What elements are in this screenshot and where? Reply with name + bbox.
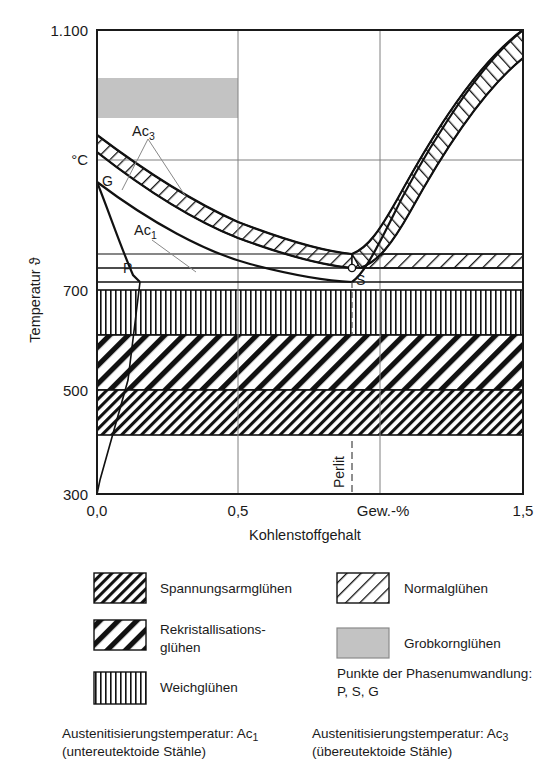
- legend-swatch-rekristallisationsgluehen: [94, 620, 146, 650]
- ytick-300: 300: [63, 486, 88, 503]
- label-point-p: P: [123, 260, 132, 276]
- y-axis-unit: °C: [71, 151, 88, 168]
- xtick-0.5: 0,5: [228, 502, 249, 519]
- legend-label-rekristallisationsgluehen-line1: Rekristallisations-: [160, 622, 266, 637]
- ytick-700: 700: [63, 282, 88, 299]
- legend-note-ac1-line1: Austenitisierungstemperatur: Ac1: [62, 726, 259, 743]
- band-spannungsarmgluehen: [97, 390, 523, 435]
- legend-note-ac1-line2: (untereutektoide Stähle): [62, 744, 206, 759]
- legend-swatch-normalgluehen: [337, 573, 389, 603]
- legend-swatch-spannungsarmgluehen: [94, 573, 146, 603]
- label-point-s: S: [356, 272, 365, 288]
- legend-label-normalgluehen: Normalglühen: [404, 581, 488, 596]
- legend-note-ac3-line2: (übereutektoide Stähle): [312, 744, 452, 759]
- legend-note-ac3-line1: Austenitisierungstemperatur: Ac3: [312, 726, 509, 743]
- x-axis-unit: Gew.-%: [357, 502, 410, 519]
- iron-carbon-heat-treatment-diagram: 1.100 700 500 300 °C Temperatur ϑ 0,0 0,…: [0, 0, 551, 782]
- band-rekristallisationsgluehen: [97, 335, 523, 390]
- band-grobkorngluehen: [97, 78, 238, 118]
- band-weichgluehen: [97, 290, 523, 335]
- y-axis-title: Temperatur ϑ: [27, 257, 43, 342]
- legend-note-phase-points-line1: Punkte der Phasenumwandlung:: [337, 666, 532, 681]
- legend-label-weichgluehen: Weichglühen: [160, 680, 238, 695]
- xtick-0.0: 0,0: [87, 502, 108, 519]
- point-marker-s: [348, 264, 355, 271]
- legend-label-grobkorngluehen: Grobkornglühen: [404, 636, 501, 651]
- legend-label-rekristallisationsgluehen-line2: glühen: [160, 640, 201, 655]
- ytick-500: 500: [63, 382, 88, 399]
- label-perlit: Perlit: [331, 456, 347, 488]
- x-axis-title: Kohlenstoffgehalt: [249, 527, 361, 543]
- ytick-1100: 1.100: [50, 22, 88, 39]
- xtick-1.5: 1,5: [513, 502, 534, 519]
- legend-note-phase-points-line2: P, S, G: [337, 684, 379, 699]
- legend-swatch-weichgluehen: [94, 672, 146, 704]
- label-point-g: G: [102, 173, 113, 189]
- legend-swatch-grobkorngluehen: [337, 628, 389, 658]
- legend-label-spannungsarmgluehen: Spannungsarmglühen: [160, 581, 292, 596]
